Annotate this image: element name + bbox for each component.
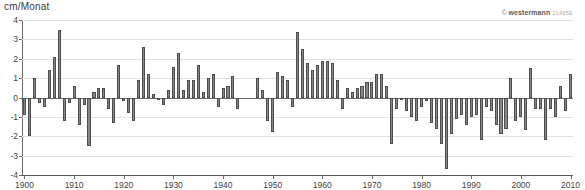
bar (539, 98, 542, 110)
x-axis-tick-label: 1900 (4, 181, 44, 190)
gridline (22, 117, 573, 118)
y-axis-tick-label: -1 (0, 113, 18, 122)
bar (480, 98, 483, 141)
bar (524, 98, 527, 131)
bar (331, 63, 334, 98)
x-axis-tick-mark (173, 175, 174, 179)
bar (360, 86, 363, 98)
bar (544, 98, 547, 141)
bar (514, 98, 517, 121)
y-axis-tick-label: -4 (0, 171, 18, 180)
bar (87, 98, 90, 146)
bar (63, 98, 66, 121)
y-axis-tick-mark (19, 175, 22, 176)
gridline (22, 20, 573, 21)
bar (286, 80, 289, 97)
bar (197, 65, 200, 98)
x-axis-tick-label: 1920 (104, 181, 144, 190)
y-axis-tick-mark (19, 156, 22, 157)
bar (395, 98, 398, 110)
x-axis-tick-mark (223, 175, 224, 179)
copyright-symbol: © (502, 9, 507, 16)
bar (152, 94, 155, 98)
bar (107, 98, 110, 110)
bar (43, 98, 46, 108)
bar (470, 98, 473, 117)
bar (341, 98, 344, 110)
y-axis-tick-mark (19, 20, 22, 21)
x-axis-tick-mark (74, 175, 75, 179)
bar (23, 98, 26, 115)
bar (58, 30, 61, 98)
y-axis-title: cm/Monat (4, 1, 50, 12)
bar (53, 57, 56, 98)
y-axis-tick-label: 1 (0, 74, 18, 83)
x-axis-tick-label: 1940 (203, 181, 243, 190)
bar (499, 98, 502, 135)
bar (127, 98, 130, 114)
bar (68, 98, 71, 104)
bar (425, 98, 428, 102)
x-axis-tick-mark (422, 175, 423, 179)
bar (33, 78, 36, 97)
bar (504, 98, 507, 129)
bar (73, 86, 76, 98)
x-axis-tick-label: 1980 (402, 181, 442, 190)
bar (122, 98, 125, 102)
bar (415, 98, 418, 121)
bar (554, 98, 557, 117)
bar (385, 86, 388, 98)
bar (147, 74, 150, 97)
x-axis-tick-mark (471, 175, 472, 179)
bar (102, 88, 105, 98)
bar (460, 98, 463, 115)
bar (455, 98, 458, 119)
bar (375, 74, 378, 97)
bar (48, 70, 51, 97)
x-axis-tick-mark (24, 175, 25, 179)
bar (142, 47, 145, 97)
bar (261, 90, 264, 98)
x-axis-tick-label: 1950 (253, 181, 293, 190)
bar (316, 65, 319, 98)
bar (92, 92, 95, 98)
bar (157, 98, 160, 100)
y-axis-tick-mark (19, 117, 22, 118)
y-axis-tick-label: -3 (0, 152, 18, 161)
bar (177, 53, 180, 98)
bar (465, 98, 468, 125)
bar (97, 88, 100, 98)
bar (207, 78, 210, 97)
bar (162, 98, 165, 106)
y-axis-tick-mark (19, 39, 22, 40)
x-axis-tick-mark (571, 175, 572, 179)
bar (291, 98, 294, 108)
bar (390, 98, 393, 145)
x-axis-tick-mark (124, 175, 125, 179)
y-axis-tick-label: 0 (0, 94, 18, 103)
bar (475, 98, 478, 115)
x-axis-tick-label: 1970 (352, 181, 392, 190)
bar (485, 98, 488, 108)
bar (271, 98, 274, 133)
bar (326, 61, 329, 98)
bar (182, 90, 185, 98)
bar (231, 76, 234, 97)
bar (410, 98, 413, 117)
y-axis-tick-mark (19, 78, 22, 79)
bar (321, 61, 324, 98)
bar (212, 74, 215, 97)
bar (236, 98, 239, 110)
bar (202, 92, 205, 98)
x-axis-tick-mark (273, 175, 274, 179)
bar (564, 98, 567, 112)
bar (296, 32, 299, 98)
bar (28, 98, 31, 137)
bar (222, 88, 225, 98)
bar (301, 49, 304, 97)
bar (38, 98, 41, 104)
bar (509, 78, 512, 97)
bar (132, 98, 135, 121)
bar (420, 98, 423, 108)
bar (519, 98, 522, 117)
